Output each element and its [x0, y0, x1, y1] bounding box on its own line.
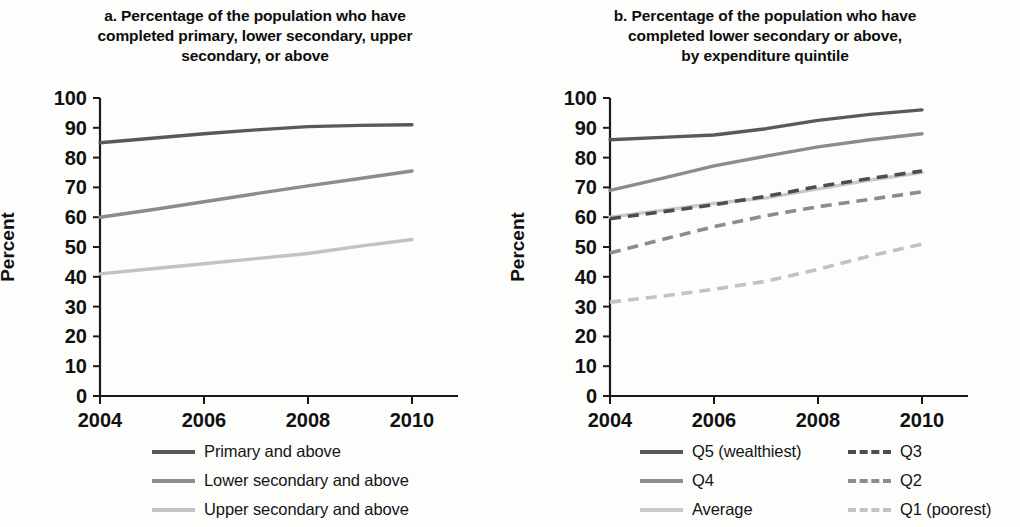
- legend-label: Lower secondary and above: [204, 471, 409, 490]
- legend-item[interactable]: Q5 (wealthiest): [640, 437, 801, 466]
- y-tick-label: 10: [575, 355, 597, 377]
- series-line: [100, 240, 412, 274]
- series-line: [610, 134, 922, 191]
- legend-label: Q4: [692, 471, 714, 490]
- x-tick-label: 2006: [692, 409, 737, 431]
- y-tick-label: 70: [575, 176, 597, 198]
- panel-a-legend: Primary and aboveLower secondary and abo…: [0, 437, 510, 527]
- x-tick-label: 2010: [390, 409, 435, 431]
- y-tick-label: 90: [575, 117, 597, 139]
- y-tick-label: 80: [65, 147, 87, 169]
- y-tick-label: 90: [65, 117, 87, 139]
- legend-item[interactable]: Q4: [640, 466, 801, 495]
- legend-label: Q1 (poorest): [900, 500, 991, 519]
- x-tick-label: 2010: [900, 409, 945, 431]
- legend-swatch-icon: [848, 508, 891, 512]
- legend-swatch-icon: [640, 479, 683, 483]
- y-axis-title: Percent: [0, 211, 18, 281]
- y-tick-label: 100: [564, 87, 597, 109]
- panel-a: a. Percentage of the population who have…: [0, 0, 510, 527]
- panel-b-svg: 01020304050607080901002004200620082010Pe…: [510, 0, 1020, 440]
- legend-swatch-icon: [640, 450, 683, 454]
- panel-a-plot-area: 01020304050607080901002004200620082010Pe…: [0, 0, 510, 440]
- y-axis-title: Percent: [510, 211, 528, 281]
- y-tick-label: 20: [575, 325, 597, 347]
- legend-item[interactable]: Upper secondary and above: [152, 495, 409, 524]
- series-line: [610, 192, 922, 253]
- legend-item[interactable]: Q3: [848, 437, 991, 466]
- legend-swatch-icon: [848, 450, 891, 454]
- y-tick-label: 0: [586, 385, 597, 407]
- legend-swatch-icon: [640, 508, 683, 512]
- y-tick-label: 50: [65, 236, 87, 258]
- legend-swatch-icon: [152, 508, 195, 512]
- legend-item[interactable]: Lower secondary and above: [152, 466, 409, 495]
- panel-a-svg: 01020304050607080901002004200620082010Pe…: [0, 0, 510, 440]
- legend-item[interactable]: Average: [640, 495, 801, 524]
- y-tick-label: 40: [575, 266, 597, 288]
- x-tick-label: 2006: [182, 409, 227, 431]
- legend-swatch-icon: [152, 450, 195, 454]
- panel-b-legend: Q5 (wealthiest)Q4Average Q3Q2Q1 (poorest…: [510, 437, 1020, 527]
- legend-label: Q2: [900, 471, 922, 490]
- x-tick-label: 2008: [796, 409, 841, 431]
- legend-label: Q3: [900, 442, 922, 461]
- y-tick-label: 30: [575, 296, 597, 318]
- x-tick-label: 2004: [588, 409, 633, 431]
- legend-swatch-icon: [152, 479, 195, 483]
- series-line: [100, 125, 412, 143]
- x-tick-label: 2004: [78, 409, 123, 431]
- y-tick-label: 50: [575, 236, 597, 258]
- y-tick-label: 0: [76, 385, 87, 407]
- legend-item[interactable]: Q2: [848, 466, 991, 495]
- series-line: [610, 244, 922, 302]
- y-tick-label: 100: [54, 87, 87, 109]
- legend-item[interactable]: Primary and above: [152, 437, 409, 466]
- y-tick-label: 20: [65, 325, 87, 347]
- legend-label: Q5 (wealthiest): [692, 442, 801, 461]
- y-tick-label: 10: [65, 355, 87, 377]
- legend-label: Average: [692, 500, 752, 519]
- legend-label: Upper secondary and above: [204, 500, 409, 519]
- panel-b-plot-area: 01020304050607080901002004200620082010Pe…: [510, 0, 1020, 440]
- legend-swatch-icon: [848, 479, 891, 483]
- series-line: [610, 110, 922, 140]
- y-tick-label: 80: [575, 147, 597, 169]
- series-line: [100, 171, 412, 217]
- two-panel-line-chart-figure: a. Percentage of the population who have…: [0, 0, 1020, 527]
- y-tick-label: 60: [65, 206, 87, 228]
- panel-b: b. Percentage of the population who have…: [510, 0, 1020, 527]
- y-tick-label: 60: [575, 206, 597, 228]
- legend-label: Primary and above: [204, 442, 341, 461]
- y-tick-label: 30: [65, 296, 87, 318]
- x-tick-label: 2008: [286, 409, 331, 431]
- y-tick-label: 40: [65, 266, 87, 288]
- y-tick-label: 70: [65, 176, 87, 198]
- legend-item[interactable]: Q1 (poorest): [848, 495, 991, 524]
